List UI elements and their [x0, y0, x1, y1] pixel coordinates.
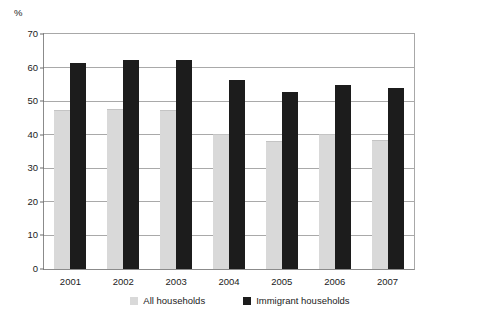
plot-area: 0102030405060702001200220032004200520062… — [43, 33, 415, 270]
y-axis-tick-label: 30 — [27, 163, 38, 173]
x-axis-tick-label-2001: 2001 — [60, 276, 81, 287]
bar-all-households-2002 — [107, 109, 123, 269]
y-axis-tick-label: 60 — [27, 63, 38, 73]
bar-all-households-2003 — [160, 110, 176, 269]
gridline — [44, 67, 414, 68]
y-axis-tick-mark — [40, 269, 44, 270]
y-axis-tick-mark — [40, 134, 44, 135]
y-axis-tick-mark — [40, 168, 44, 169]
bar-immigrant-households-2003 — [176, 60, 192, 269]
y-axis-tick-label: 0 — [33, 264, 38, 274]
legend-entry: Immigrant households — [243, 295, 349, 306]
bar-immigrant-households-2005 — [282, 92, 298, 269]
y-axis-tick-label: 50 — [27, 96, 38, 106]
legend-label: All households — [143, 295, 205, 306]
x-axis-tick-label-2003: 2003 — [166, 276, 187, 287]
x-axis-tick-label-2006: 2006 — [324, 276, 345, 287]
y-axis-tick-mark — [40, 235, 44, 236]
legend-swatch-all-households — [130, 297, 138, 305]
bar-chart-figure: % 01020304050607020012002200320042005200… — [0, 0, 480, 322]
y-axis-unit-label: % — [14, 8, 22, 18]
x-axis-tick-label-2005: 2005 — [271, 276, 292, 287]
y-axis-tick-mark — [40, 201, 44, 202]
legend-label: Immigrant households — [256, 295, 349, 306]
y-axis-tick-mark — [40, 34, 44, 35]
bar-immigrant-households-2001 — [70, 63, 86, 269]
bar-immigrant-households-2007 — [388, 88, 404, 269]
x-axis-tick-label-2002: 2002 — [113, 276, 134, 287]
x-axis-tick-label-2007: 2007 — [377, 276, 398, 287]
y-axis-tick-label: 20 — [27, 197, 38, 207]
y-axis-tick-mark — [40, 67, 44, 68]
y-axis-tick-label: 70 — [27, 29, 38, 39]
chart-legend: All householdsImmigrant households — [0, 295, 480, 306]
y-axis-tick-label: 40 — [27, 130, 38, 140]
bar-immigrant-households-2002 — [123, 60, 139, 269]
bar-all-households-2004 — [213, 134, 229, 269]
x-axis-tick-label-2004: 2004 — [218, 276, 239, 287]
bar-all-households-2001 — [54, 110, 70, 269]
legend-swatch-immigrant-households — [243, 297, 251, 305]
bar-all-households-2006 — [319, 134, 335, 269]
legend-entry: All households — [130, 295, 205, 306]
bar-immigrant-households-2006 — [335, 85, 351, 269]
y-axis-tick-mark — [40, 101, 44, 102]
bar-immigrant-households-2004 — [229, 80, 245, 269]
y-axis-tick-label: 10 — [27, 230, 38, 240]
bar-all-households-2005 — [266, 141, 282, 269]
cropped-text-artifact — [0, 0, 480, 7]
bar-all-households-2007 — [372, 140, 388, 269]
